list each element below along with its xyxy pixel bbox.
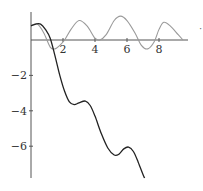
y-ticks: −2−4−6 <box>11 69 33 153</box>
line-chart: 2468 −2−4−6 · <box>0 0 203 191</box>
axes <box>31 12 188 178</box>
x-tick-label: 6 <box>124 43 131 56</box>
x-ticks: 2468 <box>60 38 163 56</box>
x-tick-label: 4 <box>92 43 99 56</box>
y-tick-label: −2 <box>11 69 27 82</box>
y-tick-label: −6 <box>11 140 27 153</box>
y-tick-label: −4 <box>11 105 27 118</box>
x-tick-label: 8 <box>156 43 163 56</box>
stray-mark: · <box>199 23 202 34</box>
